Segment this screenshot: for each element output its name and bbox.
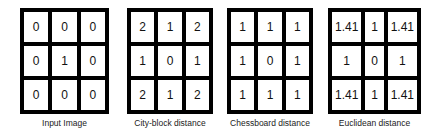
matrix-cell: 0 (24, 12, 48, 42)
matrix-cell: 1 (365, 12, 383, 42)
matrix-cell: 0 (365, 46, 383, 76)
panel-city-block: 2 1 2 1 0 1 2 1 2 (127, 8, 213, 114)
matrix-cell: 1.41 (388, 12, 417, 42)
matrix-cell: 0 (52, 80, 76, 110)
matrix-cell: 1 (131, 46, 154, 76)
panel-euclidean: 1.41 1 1.41 1 0 1 1.41 1 1.41 (328, 8, 421, 114)
matrix-cell: 1 (365, 80, 383, 110)
matrix-cell: 1 (332, 46, 361, 76)
matrix-grid: 1.41 1 1.41 1 0 1 1.41 1 1.41 (328, 8, 421, 114)
matrix-cell: 1 (231, 46, 254, 76)
matrix-cell: 0 (158, 46, 181, 76)
matrix-cell: 0 (81, 46, 105, 76)
panel-chessboard: 1 1 1 1 0 1 1 1 1 (227, 8, 313, 114)
matrix-cell: 0 (81, 80, 105, 110)
matrix-cell: 0 (24, 46, 48, 76)
matrix-cell: 2 (131, 80, 154, 110)
matrix-cell: 1 (286, 80, 309, 110)
matrix-cell: 1.41 (388, 80, 417, 110)
matrix-cell: 1 (286, 12, 309, 42)
matrix-cell: 1 (388, 46, 417, 76)
matrix-cell: 0 (258, 46, 281, 76)
matrix-cell: 1 (231, 80, 254, 110)
panel-input-image: 0 0 0 0 1 0 0 0 0 (20, 8, 109, 114)
matrix-cell: 0 (52, 12, 76, 42)
matrix-cell: 0 (24, 80, 48, 110)
matrix-cell: 1 (231, 12, 254, 42)
matrix-grid: 1 1 1 1 0 1 1 1 1 (227, 8, 313, 114)
matrix-cell: 1 (186, 46, 209, 76)
matrix-cell: 1.41 (332, 80, 361, 110)
matrix-cell: 2 (186, 12, 209, 42)
matrix-cell: 2 (186, 80, 209, 110)
matrix-cell: 1 (158, 12, 181, 42)
matrix-cell: 1 (258, 12, 281, 42)
matrix-grid: 0 0 0 0 1 0 0 0 0 (20, 8, 109, 114)
caption-euclidean: Euclidean distance (328, 118, 421, 128)
matrix-cell: 1 (258, 80, 281, 110)
matrix-cell: 1 (52, 46, 76, 76)
caption-chessboard: Chessboard distance (227, 118, 313, 128)
matrix-cell: 1 (158, 80, 181, 110)
matrix-cell: 0 (81, 12, 105, 42)
matrix-cell: 2 (131, 12, 154, 42)
matrix-cell: 1 (286, 46, 309, 76)
caption-input-image: Input Image (20, 118, 109, 128)
matrix-cell: 1.41 (332, 12, 361, 42)
caption-city-block: City-block distance (127, 118, 213, 128)
matrix-grid: 2 1 2 1 0 1 2 1 2 (127, 8, 213, 114)
